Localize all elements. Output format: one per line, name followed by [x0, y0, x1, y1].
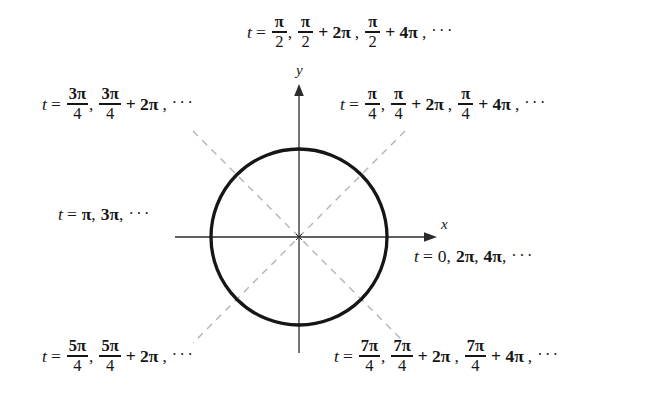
comma-1: , [381, 96, 385, 114]
label-3pi-over-4-equals: = [51, 96, 61, 114]
label-3pi-over-4-term2-fraction: 3π 4 [99, 86, 120, 123]
comma-1: , [89, 96, 93, 114]
label-7pi-over-4-term3-denominator: 4 [469, 357, 481, 375]
label-7pi-over-4-term2-numerator: 7π [391, 338, 412, 356]
label-zero-equals: = [423, 248, 433, 266]
comma-2: , [119, 206, 123, 224]
comma-1: , [91, 206, 95, 224]
label-pi: t = π , 3π , ··· [58, 206, 152, 224]
label-pi-over-2-term1-denominator: 2 [273, 33, 285, 51]
comma-3: , [422, 24, 426, 42]
label-5pi-over-4-term1-denominator: 4 [71, 357, 83, 375]
label-pi-over-4-equals: = [349, 96, 359, 114]
label-pi-over-2-term1-fraction: π 2 [272, 14, 287, 51]
label-5pi-over-4-term2-fraction: 5π 4 [99, 338, 120, 375]
label-pi-over-4-term3-fraction: π 4 [458, 86, 473, 123]
label-3pi-over-4-term1-denominator: 4 [71, 105, 83, 123]
label-3pi-over-4-term2-offset: + 2π [126, 96, 159, 114]
label-5pi-over-4-equals: = [51, 348, 61, 366]
label-pi-over-2-term2-offset: + 2π [318, 24, 351, 42]
label-pi-over-4-term1-fraction: π 4 [365, 86, 380, 123]
comma-1: , [89, 348, 93, 366]
label-pi-first-term: π [82, 206, 92, 224]
label-pi-over-4-term2-denominator: 4 [393, 105, 405, 123]
label-7pi-over-4-term2-fraction: 7π 4 [391, 338, 412, 375]
label-pi-over-2-ellipsis: ··· [431, 23, 454, 39]
label-5pi-over-4: t = 5π 4 , 5π 4 + 2π , ··· [42, 338, 195, 375]
comma-2: , [454, 348, 458, 366]
label-7pi-over-4-variable: t [334, 348, 339, 366]
label-pi-over-4-ellipsis: ··· [524, 95, 547, 111]
label-3pi-over-4: t = 3π 4 , 3π 4 + 2π , ··· [42, 86, 195, 123]
comma-3: , [528, 348, 532, 366]
label-7pi-over-4-ellipsis: ··· [537, 347, 560, 363]
label-7pi-over-4-term3-fraction: 7π 4 [465, 338, 486, 375]
label-pi-second-term: 3π [101, 206, 119, 224]
label-pi-over-2-term1-numerator: π [273, 14, 286, 32]
label-pi-over-2: t = π 2 , π 2 + 2π , π 2 + 4π , ··· [247, 14, 455, 51]
unit-circle-diagram: y x t = π 2 , π 2 + 2π , π 2 + 4π , ··· … [0, 0, 667, 399]
comma-3: , [515, 96, 519, 114]
label-zero: t = 0 , 2π , 4π , ··· [414, 248, 535, 266]
label-3pi-over-4-term1-numerator: 3π [67, 86, 88, 104]
label-3pi-over-4-variable: t [42, 96, 47, 114]
label-7pi-over-4-term1-fraction: 7π 4 [359, 338, 380, 375]
label-5pi-over-4-term2-offset: + 2π [126, 348, 159, 366]
y-axis-arrowhead [294, 84, 304, 96]
label-5pi-over-4-ellipsis: ··· [172, 347, 195, 363]
label-zero-ellipsis: ··· [511, 248, 534, 264]
comma-1: , [447, 248, 451, 266]
label-zero-variable: t [414, 248, 419, 266]
label-5pi-over-4-term2-denominator: 4 [104, 357, 116, 375]
label-zero-second-term: 2π [456, 248, 474, 266]
label-pi-over-2-term2-fraction: π 2 [298, 14, 313, 51]
label-zero-first-term: 0 [438, 248, 447, 266]
comma-1: , [288, 24, 292, 42]
comma-2: , [474, 248, 478, 266]
label-7pi-over-4-term3-numerator: 7π [465, 338, 486, 356]
label-3pi-over-4-term2-numerator: 3π [99, 86, 120, 104]
label-5pi-over-4-term1-fraction: 5π 4 [67, 338, 88, 375]
label-pi-variable: t [58, 206, 63, 224]
x-axis-arrowhead [424, 232, 437, 242]
label-pi-over-2-term2-denominator: 2 [300, 33, 312, 51]
label-pi-over-2-term3-offset: + 4π [385, 24, 418, 42]
label-pi-over-4-term3-numerator: π [459, 86, 472, 104]
label-5pi-over-4-term2-numerator: 5π [99, 338, 120, 356]
comma-3: , [502, 248, 506, 266]
label-7pi-over-4: t = 7π 4 , 7π 4 + 2π , 7π 4 + 4π , ··· [334, 338, 561, 375]
comma-1: , [381, 348, 385, 366]
label-3pi-over-4-ellipsis: ··· [172, 95, 195, 111]
label-pi-over-4-term3-offset: + 4π [478, 96, 511, 114]
comma-2: , [355, 24, 359, 42]
label-3pi-over-4-term1-fraction: 3π 4 [67, 86, 88, 123]
label-pi-over-2-equals: = [256, 24, 266, 42]
label-7pi-over-4-term1-denominator: 4 [363, 357, 375, 375]
label-pi-over-2-variable: t [247, 24, 252, 42]
label-pi-ellipsis: ··· [128, 206, 151, 222]
comma-2: , [162, 348, 166, 366]
comma-2: , [162, 96, 166, 114]
label-7pi-over-4-term1-numerator: 7π [359, 338, 380, 356]
label-7pi-over-4-term3-offset: + 4π [491, 348, 524, 366]
label-pi-over-2-term3-denominator: 2 [367, 33, 379, 51]
label-7pi-over-4-equals: = [343, 348, 353, 366]
label-5pi-over-4-variable: t [42, 348, 47, 366]
comma-2: , [448, 96, 452, 114]
label-pi-over-4-term2-fraction: π 4 [391, 86, 406, 123]
label-7pi-over-4-term2-denominator: 4 [396, 357, 408, 375]
label-3pi-over-4-term2-denominator: 4 [104, 105, 116, 123]
y-axis-label: y [296, 62, 303, 79]
label-pi-over-4-term1-denominator: 4 [366, 105, 378, 123]
label-pi-over-4: t = π 4 , π 4 + 2π , π 4 + 4π , ··· [340, 86, 548, 123]
label-7pi-over-4-term2-offset: + 2π [418, 348, 451, 366]
label-pi-equals: = [67, 206, 77, 224]
label-pi-over-4-term2-numerator: π [392, 86, 405, 104]
x-axis-label: x [441, 216, 448, 233]
label-pi-over-4-term1-numerator: π [366, 86, 379, 104]
label-zero-third-term: 4π [484, 248, 502, 266]
label-pi-over-2-term3-fraction: π 2 [365, 14, 380, 51]
label-pi-over-4-term3-denominator: 4 [460, 105, 472, 123]
label-pi-over-2-term3-numerator: π [366, 14, 379, 32]
label-pi-over-4-term2-offset: + 2π [411, 96, 444, 114]
